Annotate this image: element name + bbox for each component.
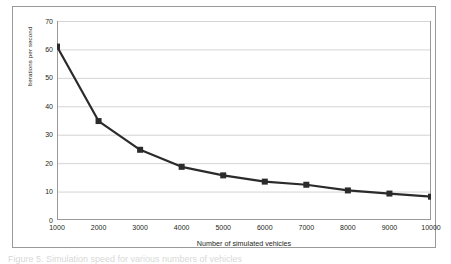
chart-frame: 010203040506070 100020003000400050006000… (12, 6, 436, 248)
y-tick-label: 10 (27, 188, 53, 195)
x-tick-label: 5000 (203, 224, 243, 231)
figure-caption: Figure 5. Simulation speed for various n… (8, 254, 388, 264)
x-tick-label: 1000 (37, 224, 77, 231)
y-tick-label: 0 (27, 217, 53, 224)
x-tick-label: 2000 (79, 224, 119, 231)
y-axis-title: Iterations per second (26, 0, 33, 117)
x-tick-label: 3000 (120, 224, 160, 231)
figure: 010203040506070 100020003000400050006000… (0, 0, 451, 264)
x-axis-title: Number of simulated vehicles (57, 239, 431, 248)
x-tick-label: 7000 (286, 224, 326, 231)
x-tick-label: 10000 (411, 224, 451, 231)
x-tick-label: 6000 (245, 224, 285, 231)
x-tick-label: 9000 (369, 224, 409, 231)
x-tick-label: 4000 (162, 224, 202, 231)
plot-area (57, 21, 431, 220)
x-tick-label: 8000 (328, 224, 368, 231)
line-chart-svg (57, 21, 431, 220)
y-tick-label: 30 (27, 131, 53, 138)
y-tick-label: 20 (27, 160, 53, 167)
